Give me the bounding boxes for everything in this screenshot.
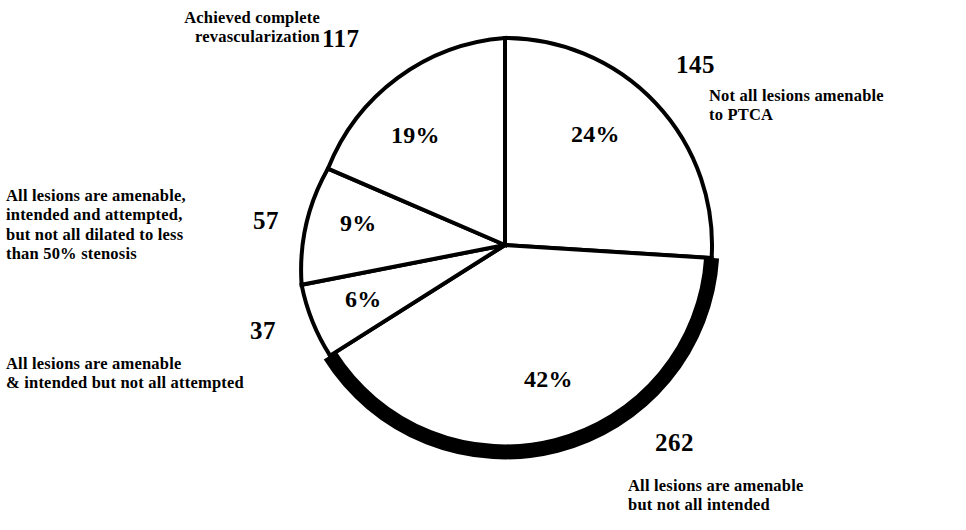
- slice-percent-not-intended: 42%: [524, 366, 573, 393]
- slice-value-not-attempted: 37: [250, 316, 310, 346]
- slice-percent-not-dilated: 9%: [340, 210, 377, 237]
- slice-value-not-dilated: 57: [253, 206, 313, 236]
- slice-percent-complete-revasc: 19%: [391, 122, 440, 149]
- slice-label-complete-revasc: Achieved complete revascularization: [122, 8, 320, 47]
- slice-label-not-dilated: All lesions are amenable, intended and a…: [6, 186, 258, 264]
- slice-value-not-amenable: 145: [676, 50, 756, 80]
- pie-chart-figure: 24% 42% 6% 9% 19% Achieved complete reva…: [0, 0, 966, 530]
- slice-percent-not-attempted: 6%: [345, 286, 382, 313]
- slice-label-not-intended: All lesions are amenable but not all int…: [628, 476, 928, 515]
- slice-value-not-intended: 262: [655, 428, 735, 458]
- slice-percent-not-amenable: 24%: [571, 121, 620, 148]
- pie-chart-graphic: [0, 0, 966, 530]
- slice-value-complete-revasc: 117: [322, 24, 392, 54]
- slice-label-not-amenable: Not all lesions amenable to PTCA: [709, 86, 959, 125]
- slice-label-not-attempted: All lesions are amenable & intended but …: [6, 354, 336, 393]
